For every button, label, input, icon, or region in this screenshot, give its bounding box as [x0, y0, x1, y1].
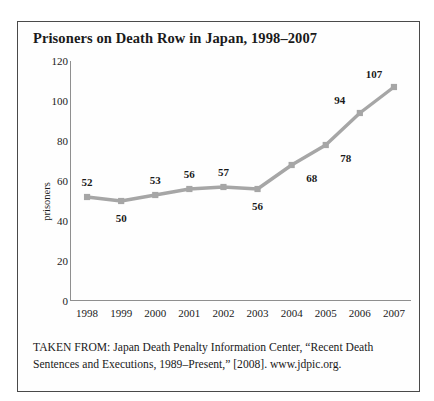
data-point-marker: [323, 142, 329, 148]
data-point-label: 52: [82, 177, 93, 188]
y-tick-label: 0: [34, 296, 68, 307]
y-tick-label: 80: [34, 136, 68, 147]
chart-plot-area: prisoners 020406080100120 52505356575668…: [18, 58, 421, 328]
page-title: Prisoners on Death Row in Japan, 1998–20…: [33, 30, 317, 47]
y-tick-label: 120: [34, 56, 68, 67]
data-point-label: 56: [184, 169, 195, 180]
data-point-label: 56: [252, 201, 263, 212]
x-tick-label: 2007: [383, 308, 405, 319]
data-point-marker: [84, 194, 90, 200]
x-tick-label: 2005: [315, 308, 337, 319]
figure-frame: Prisoners on Death Row in Japan, 1998–20…: [17, 21, 420, 392]
x-tick-label: 2003: [247, 308, 269, 319]
data-point-marker: [391, 84, 397, 90]
data-point-marker: [220, 184, 226, 190]
x-tick-label: 2006: [349, 308, 371, 319]
data-point-marker: [289, 162, 295, 168]
data-point-marker: [254, 186, 260, 192]
y-axis-ticks: 020406080100120: [34, 58, 68, 300]
data-point-label: 94: [334, 95, 345, 106]
y-tick-label: 60: [34, 176, 68, 187]
x-tick-label: 1999: [110, 308, 132, 319]
data-point-label: 57: [218, 167, 229, 178]
data-point-label: 50: [116, 213, 127, 224]
data-point-label: 107: [366, 69, 383, 80]
data-point-marker: [152, 192, 158, 198]
data-point-marker: [186, 186, 192, 192]
x-tick-label: 2000: [144, 308, 166, 319]
data-point-label: 53: [150, 175, 161, 186]
data-point-label: 78: [340, 153, 351, 164]
x-tick-label: 2001: [178, 308, 200, 319]
x-tick-label: 2002: [212, 308, 234, 319]
source-line-2: Sentences and Executions, 1989–Present,”…: [33, 358, 341, 371]
data-point-marker: [357, 110, 363, 116]
y-tick-label: 20: [34, 256, 68, 267]
x-tick-label: 2004: [281, 308, 303, 319]
data-point-marker: [118, 198, 124, 204]
x-tick-label: 1998: [76, 308, 98, 319]
source-line-1: TAKEN FROM: Japan Death Penalty Informat…: [33, 341, 373, 354]
line-series: [70, 61, 411, 301]
y-tick-label: 100: [34, 96, 68, 107]
source-note: TAKEN FROM: Japan Death Penalty Informat…: [33, 340, 406, 373]
y-tick-label: 40: [34, 216, 68, 227]
series-line: [87, 87, 394, 201]
data-point-label: 68: [306, 173, 317, 184]
